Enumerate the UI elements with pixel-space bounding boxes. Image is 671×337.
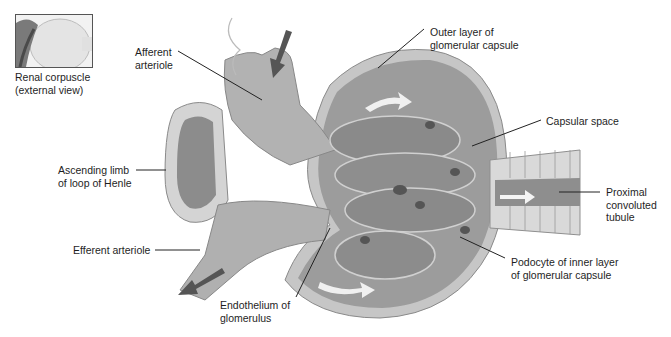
afferent-arteriole (224, 18, 335, 165)
ascending-limb (165, 103, 228, 223)
label-efferent-arteriole: Efferent arteriole (73, 244, 150, 257)
label-afferent-arteriole: Afferent arteriole (135, 46, 173, 71)
label-outer-layer-glomerular-capsule: Outer layer of glomerular capsule (430, 26, 519, 51)
label-capsular-space: Capsular space (546, 115, 619, 128)
label-proximal-convoluted-tubule: Proximal convoluted tubule (606, 186, 657, 224)
label-ascending-limb: Ascending limb of loop of Henle (58, 164, 132, 189)
label-podocyte: Podocyte of inner layer of glomerular ca… (511, 256, 618, 281)
label-endothelium-glomerulus: Endothelium of glomerulus (220, 299, 290, 324)
